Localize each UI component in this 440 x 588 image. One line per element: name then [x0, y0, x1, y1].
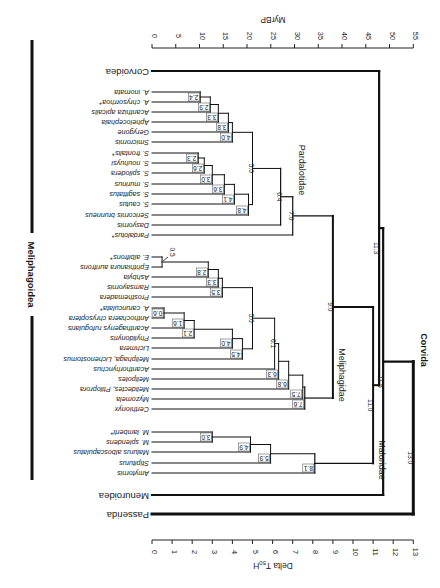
arrow-icon: [163, 257, 168, 261]
top-axis-tick-label: 40: [340, 32, 349, 40]
taxon-label: Phylidonyris: [110, 334, 149, 343]
taxon-label: Ramsayornis: [107, 283, 149, 292]
tree-branches: 2.42.93.33.84.02.32.63.03.64.14.85.06.47…: [152, 71, 414, 514]
bottom-axis-tick-label: 9: [331, 550, 340, 554]
node-value-label: 2.1: [183, 330, 192, 337]
bottom-axis-tick-label: 3: [210, 550, 219, 554]
taxon-label: Anthochaera chrysoptera: [69, 314, 150, 323]
bottom-axis-tick-label: 4: [230, 550, 239, 554]
clade-label: Corvida: [419, 333, 429, 368]
node-value-label: 6.8: [277, 381, 286, 388]
taxon-label: Smicrornis: [115, 138, 149, 147]
taxon-labels: CorvoideaA. inornataA. chrysorrhoa*Acant…: [63, 67, 150, 521]
taxon-label: S. nouhuysi: [111, 159, 149, 168]
top-axis-tick-label: 25: [269, 32, 278, 40]
node-value-label: 3.0: [201, 434, 210, 441]
taxon-label: Acanthiza apicalis: [91, 108, 150, 117]
top-axis-title: MyrBP: [260, 15, 286, 25]
taxon-label: Menuroidea: [98, 491, 149, 502]
node-value-label: 2.8: [197, 269, 206, 276]
taxon-label: Meliphaga, Lichenostomus: [63, 355, 149, 364]
node-value-label: 0.6: [153, 310, 162, 317]
node-value-label: 11.3: [373, 242, 380, 255]
taxon-label: Ephthianura aurifrons: [80, 263, 149, 272]
taxon-label: M. splendens: [106, 438, 149, 447]
node-value-label: 0.5: [169, 247, 176, 256]
taxon-label: A. carunculata*: [100, 304, 150, 313]
taxon-label: A. inornata: [114, 88, 150, 97]
node-value-label: 3.3: [207, 279, 216, 286]
taxon-label: Prosthemadera: [100, 293, 149, 302]
node-value-label: 4.5: [231, 351, 240, 358]
node-value-label: 4.8: [237, 207, 246, 214]
taxon-label: Melipotes: [118, 375, 149, 384]
taxon-label: Certhionyx: [114, 405, 149, 414]
bottom-axis-tick-label: 1: [170, 550, 179, 554]
taxon-label: Acanthorhynchus: [93, 365, 150, 374]
top-axis-tick-label: 50: [388, 32, 397, 40]
top-axis-tick-label: 30: [293, 32, 302, 40]
clade-label: Meliphagidae: [337, 348, 347, 402]
bottom-axis-tick-label: 7: [291, 550, 300, 554]
top-axis-tick-label: 20: [245, 32, 254, 40]
bottom-axis-tick-label: 5: [251, 550, 260, 554]
top-axis-tick-label: 15: [221, 32, 230, 40]
node-value-label: 5.9: [259, 455, 268, 462]
taxon-label: Malurus alboscapulatus: [73, 448, 149, 457]
taxon-label: Melidectes, Ptiloprora: [80, 385, 149, 394]
taxon-label: S. cautus: [119, 200, 149, 209]
taxon-label: S. spilodera: [111, 169, 149, 178]
node-value-label: 3.8: [217, 124, 226, 131]
bottom-axis-tick-label: 8: [311, 550, 320, 554]
node-value-label: 4.0: [221, 340, 230, 347]
clade-label: Pardalotidae: [297, 145, 307, 196]
node-value-label: 4.0: [221, 134, 230, 141]
clade-labels: PardalotidaeMeliphagidaeMaluridaeCorvida…: [26, 40, 429, 480]
top-axis-tick-label: 35: [316, 32, 325, 40]
taxon-label: Acanthagenys rufogularis: [67, 324, 150, 333]
node-value-label: 2.6: [193, 165, 202, 172]
taxon-label: Aphelocephala: [101, 118, 150, 127]
bracket-label: Meliphagoidea: [26, 242, 37, 309]
node-value-label: 13.0: [407, 451, 414, 464]
bottom-axis-tick-label: 13: [411, 548, 420, 556]
taxon-label: S. sagittatus: [109, 190, 149, 199]
bottom-axis-tick-label: 2: [190, 550, 199, 554]
node-value-label: 3.6: [213, 186, 222, 193]
node-value-label: 11.5: [377, 375, 384, 388]
taxon-label: Amytornis: [117, 469, 150, 478]
node-value-label: 4.9: [239, 444, 248, 451]
node-value-label: 7.6: [293, 401, 302, 408]
taxon-label: Corvoidea: [105, 67, 149, 78]
top-axis-tick-label: 5: [174, 34, 183, 38]
taxon-label: Sericornis brunneus: [85, 211, 149, 220]
taxon-label: A. chrysorrhoa*: [99, 98, 150, 107]
top-axis-tick-label: 55: [411, 32, 420, 40]
node-value-label: 4.1: [223, 196, 232, 203]
node-value-label: 2.4: [189, 94, 198, 101]
taxon-label: Dasyornis: [117, 221, 149, 230]
taxon-label: Pardalotus*: [112, 231, 149, 240]
top-axis-tick-label: 10: [198, 32, 207, 40]
bottom-axis-tick-label: 11: [371, 548, 380, 556]
taxon-label: Myzomela: [116, 395, 149, 404]
taxon-label: E. albifrons*: [110, 253, 149, 262]
bottom-axis-tick-label: 6: [271, 550, 280, 554]
node-value-label: 6.3: [267, 371, 276, 378]
node-value-label: 1.6: [173, 320, 182, 327]
node-value-label: 3.5: [211, 289, 220, 296]
bottom-axis-tick-label: 12: [391, 548, 400, 556]
top-axis-tick-label: 0: [150, 34, 159, 38]
node-value-label: 7.5: [291, 391, 300, 398]
taxon-label: Gerygone: [117, 128, 149, 137]
node-value-label: 11.0: [367, 399, 374, 412]
taxon-label: Lichmera: [119, 344, 149, 353]
node-value-label: 8.1: [303, 465, 312, 472]
taxon-label: Passerida: [106, 510, 149, 521]
node-value-label: 3.0: [201, 176, 210, 183]
bottom-axis-tick-label: 0: [150, 550, 159, 554]
taxon-label: Ashbyia: [123, 273, 150, 282]
node-value-label: 2.9: [199, 104, 208, 111]
clade-label: Maluridae: [377, 440, 387, 480]
node-value-label: 3.3: [207, 114, 216, 121]
